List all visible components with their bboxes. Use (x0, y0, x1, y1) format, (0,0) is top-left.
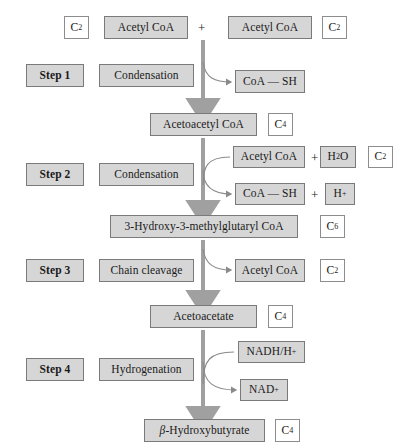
carbon-subscript: 4 (289, 427, 293, 435)
carbon-subscript: 2 (382, 153, 386, 161)
step-label-2: Step 2 (26, 163, 84, 186)
carbon-symbol: C (327, 265, 335, 277)
carbon-count-c2-left: C2 (64, 16, 89, 39)
byproduct-label: Acetyl CoA (242, 265, 298, 277)
carbon-symbol: C (71, 22, 79, 34)
step-number: Step 3 (40, 265, 71, 277)
proton-superscript: + (342, 190, 347, 198)
step-label-4: Step 4 (26, 358, 84, 381)
substrate-acetyl-coa-step2: Acetyl CoA (233, 146, 305, 168)
step-reaction-2: Condensation (99, 163, 194, 186)
metabolite-acetyl-coa-right: Acetyl CoA (228, 16, 312, 39)
carbon-count-c4-acetoacetate: C4 (268, 305, 293, 328)
step-label-3: Step 3 (26, 259, 84, 282)
carbon-symbol: C (327, 221, 335, 233)
step-reaction-4: Hydrogenation (99, 358, 194, 381)
byproduct-proton-step2: H+ (325, 183, 355, 205)
step-number: Step 1 (40, 70, 71, 82)
byproduct-label: CoA — SH (243, 76, 297, 88)
water-symbol: H (328, 151, 336, 163)
cofactor-nad-step4: NAD+ (240, 379, 288, 401)
carbon-subscript: 6 (334, 223, 338, 231)
intermediate-acetoacetyl-coa: Acetoacetyl CoA (150, 113, 257, 136)
carbon-count-c4-acetoacetyl: C4 (268, 113, 293, 136)
step-number: Step 2 (40, 169, 71, 181)
metabolite-acetyl-coa-left: Acetyl CoA (104, 16, 188, 39)
reaction-label: Hydrogenation (111, 364, 181, 376)
nadh-symbol: NADH/H (247, 346, 292, 358)
ketogenesis-pathway-diagram: C2 Acetyl CoA + Acetyl CoA C2 Step 1 Con… (0, 0, 414, 447)
substrate-label: Acetyl CoA (241, 151, 297, 163)
carbon-subscript: 2 (336, 24, 340, 32)
carbon-count-c6-hmg: C6 (320, 215, 345, 238)
carbon-subscript: 2 (78, 24, 82, 32)
carbon-subscript: 4 (282, 121, 286, 129)
carbon-count-c2-right: C2 (322, 16, 347, 39)
water-oxygen: O (340, 151, 348, 163)
carbon-symbol: C (282, 425, 290, 437)
step-number: Step 4 (40, 364, 71, 376)
reaction-label: Condensation (114, 70, 178, 82)
step-reaction-3: Chain cleavage (99, 259, 194, 282)
metabolite-label: Acetyl CoA (242, 22, 298, 34)
carbon-subscript: 2 (334, 267, 338, 275)
product-beta-hydroxybutyrate: β-Hydroxybutyrate (144, 419, 265, 442)
plus-operator-substrates: + (198, 21, 205, 34)
byproduct-label: CoA — SH (243, 188, 297, 200)
byproduct-coash-step2: CoA — SH (235, 183, 305, 205)
byproduct-coash-step1: CoA — SH (235, 70, 305, 93)
nad-symbol: NAD (249, 384, 274, 396)
carbon-symbol: C (275, 311, 283, 323)
carbon-count-c2-step2: C2 (368, 146, 393, 168)
reaction-label: Chain cleavage (111, 265, 183, 277)
metabolite-label: Acetyl CoA (118, 22, 174, 34)
nad-superscript: + (274, 386, 279, 394)
cofactor-nadh-step4: NADH/H+ (238, 341, 305, 363)
intermediate-label: Acetoacetyl CoA (163, 119, 244, 131)
product-label: -Hydroxybutyrate (165, 425, 249, 437)
reaction-label: Condensation (114, 169, 178, 181)
carbon-subscript: 4 (282, 313, 286, 321)
intermediate-label: Acetoacetate (173, 311, 234, 323)
byproduct-acetyl-coa-step3: Acetyl CoA (235, 259, 305, 282)
nadh-superscript: + (292, 348, 297, 356)
plus-operator-step2-input: + (311, 151, 318, 164)
step-label-1: Step 1 (26, 64, 84, 87)
intermediate-acetoacetate: Acetoacetate (150, 305, 257, 328)
carbon-symbol: C (275, 119, 283, 131)
carbon-symbol: C (375, 151, 383, 163)
carbon-symbol: C (329, 22, 337, 34)
substrate-water-step2: H2O (320, 146, 356, 168)
carbon-count-c2-step3: C2 (320, 259, 345, 282)
intermediate-label: 3-Hydroxy-3-methylglutaryl CoA (124, 221, 283, 233)
plus-operator-step2-output: + (311, 188, 318, 201)
proton-symbol: H (333, 188, 341, 200)
step-reaction-1: Condensation (99, 64, 194, 87)
carbon-count-c4-product: C4 (275, 419, 300, 442)
intermediate-hmg-coa: 3-Hydroxy-3-methylglutaryl CoA (110, 215, 298, 238)
